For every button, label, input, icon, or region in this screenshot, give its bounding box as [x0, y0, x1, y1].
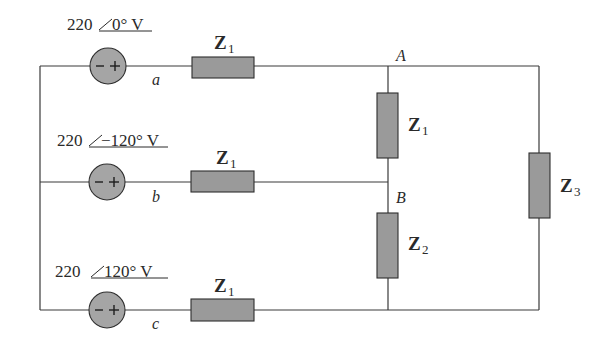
label-z1-load: Z 1 — [408, 114, 429, 138]
impedance-z1-line-b — [191, 171, 254, 192]
label-z1-line-c: Z 1 — [214, 275, 235, 299]
node-label-B: B — [396, 189, 406, 206]
angle-symbol-icon — [91, 266, 104, 277]
ac-source-icon — [90, 48, 126, 84]
voltage-source-c — [89, 292, 125, 328]
z-letter: Z — [560, 175, 573, 196]
label-z2-load: Z 2 — [408, 233, 429, 257]
z-letter: Z — [214, 275, 227, 296]
source-c-label: 220 120° V — [55, 262, 168, 281]
source-b-magnitude: 220 — [57, 131, 83, 150]
z-subscript: 1 — [422, 123, 429, 138]
impedance-z1-line-c — [191, 299, 254, 321]
impedance-z1-load — [377, 93, 398, 158]
z-letter: Z — [408, 233, 421, 254]
source-a-label: 220 0° V — [67, 15, 152, 34]
label-z3-load: Z 3 — [560, 175, 581, 199]
node-label-c: c — [152, 315, 159, 332]
voltage-source-a — [90, 48, 126, 84]
ac-source-icon — [89, 164, 125, 200]
z-letter: Z — [408, 114, 421, 135]
impedance-z2-load — [377, 213, 398, 278]
z-subscript: 3 — [574, 184, 581, 199]
label-z1-line-b: Z 1 — [216, 147, 237, 171]
label-z1-line-a: Z 1 — [214, 32, 235, 56]
z-subscript: 1 — [230, 156, 237, 171]
ac-source-icon — [89, 292, 125, 328]
voltage-source-b — [89, 164, 125, 200]
z-subscript: 2 — [422, 242, 429, 257]
source-c-magnitude: 220 — [55, 262, 81, 281]
source-a-magnitude: 220 — [67, 15, 93, 34]
z-subscript: 1 — [228, 41, 235, 56]
source-b-label: 220 −120° V — [57, 131, 168, 150]
node-label-b: b — [152, 188, 160, 205]
impedance-z3-load — [529, 153, 550, 218]
angle-symbol-icon — [99, 19, 112, 30]
z-letter: Z — [216, 147, 229, 168]
z-letter: Z — [214, 32, 227, 53]
node-label-A: A — [395, 47, 406, 64]
three-phase-circuit-diagram: 220 0° V 220 −120° V 220 120° V a b c A … — [0, 0, 603, 344]
z-subscript: 1 — [228, 284, 235, 299]
impedance-z1-line-a — [192, 57, 254, 78]
node-label-a: a — [152, 71, 160, 88]
